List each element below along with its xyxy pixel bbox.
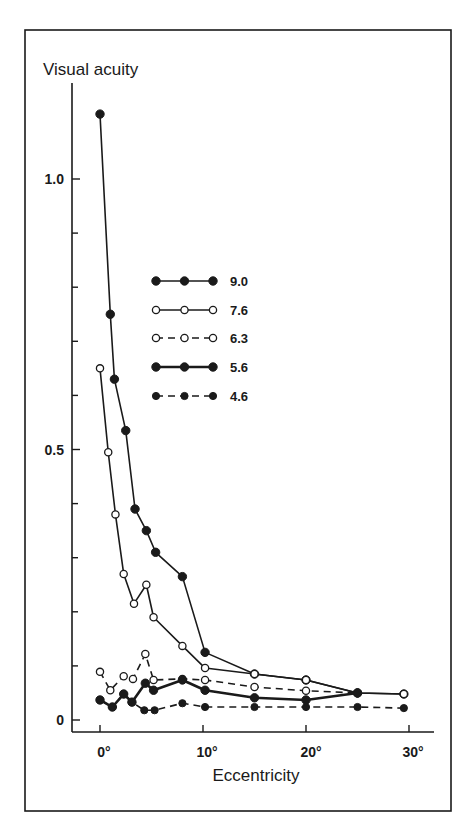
data-point — [149, 686, 157, 694]
data-point — [129, 675, 136, 682]
legend-marker — [152, 392, 159, 399]
data-point — [110, 375, 118, 383]
data-point — [178, 572, 186, 580]
data-point — [201, 703, 208, 710]
y-tick-label-1.0: 1.0 — [45, 171, 65, 187]
legend-label-9.0: 9.0 — [230, 274, 248, 289]
legend-marker — [209, 363, 217, 371]
x-tick-label-30: 30° — [402, 744, 423, 760]
y-axis-title: Visual acuity — [43, 60, 139, 79]
data-point — [150, 614, 157, 621]
data-point — [201, 648, 209, 656]
data-point — [96, 696, 103, 703]
legend-label-4.6: 4.6 — [230, 389, 248, 404]
legend-swatch-9.0 — [152, 277, 217, 285]
y-tick-label-0.5: 0.5 — [45, 442, 65, 458]
legend-item-6.3: 6.3 — [152, 331, 248, 346]
legend-item-5.6: 5.6 — [152, 360, 248, 375]
data-point — [400, 690, 407, 697]
data-point — [106, 310, 114, 318]
data-point — [96, 668, 103, 675]
legend-marker — [152, 277, 160, 285]
data-point — [107, 687, 114, 694]
legend-marker — [152, 306, 159, 313]
data-point — [143, 581, 150, 588]
legend-swatch-6.3 — [152, 334, 216, 341]
data-point — [141, 707, 148, 714]
legend-marker — [152, 334, 159, 341]
legend-label-5.6: 5.6 — [230, 360, 248, 375]
legend-item-4.6: 4.6 — [152, 389, 248, 404]
data-point — [250, 694, 258, 702]
data-point — [96, 365, 103, 372]
data-point — [122, 426, 130, 434]
y-tick-label-0: 0 — [56, 712, 64, 728]
legend-marker — [181, 334, 188, 341]
data-point — [251, 670, 258, 677]
data-point — [131, 505, 139, 513]
data-point — [120, 673, 127, 680]
data-point — [302, 703, 309, 710]
data-point — [201, 664, 208, 671]
data-point — [251, 703, 258, 710]
data-point — [201, 676, 208, 683]
data-point — [302, 676, 309, 683]
x-tick-label-20: 20° — [300, 744, 321, 760]
x-axis-title: Eccentricity — [213, 766, 300, 785]
legend-swatch-7.6 — [152, 306, 216, 313]
x-tick-label-0: 0° — [97, 744, 110, 760]
data-point — [178, 676, 186, 684]
data-point — [151, 707, 158, 714]
data-point — [150, 676, 157, 683]
legend-marker — [181, 392, 188, 399]
data-point — [151, 548, 159, 556]
data-point — [354, 703, 361, 710]
data-point — [302, 687, 309, 694]
data-series — [96, 110, 408, 714]
series-6.3 — [96, 650, 361, 696]
y-ticks — [72, 179, 80, 720]
legend-label-7.6: 7.6 — [230, 303, 248, 318]
data-point — [109, 703, 116, 710]
data-point — [400, 704, 407, 711]
data-point — [141, 679, 149, 687]
data-point — [96, 110, 104, 118]
data-point — [142, 526, 150, 534]
data-point — [353, 689, 361, 697]
data-point — [105, 449, 112, 456]
data-point — [142, 650, 149, 657]
legend-marker — [180, 277, 188, 285]
data-point — [179, 700, 186, 707]
series-line — [100, 654, 358, 693]
visual-acuity-chart: Visual acuity 1.0 0.5 0 0° 10° 20° 30° E… — [0, 0, 473, 828]
data-point — [251, 683, 258, 690]
data-point — [179, 642, 186, 649]
legend-item-7.6: 7.6 — [152, 303, 248, 318]
series-line — [100, 114, 404, 694]
legend-marker — [209, 392, 216, 399]
data-point — [120, 690, 127, 697]
data-point — [112, 511, 119, 518]
legend-label-6.3: 6.3 — [230, 331, 248, 346]
legend-item-9.0: 9.0 — [152, 274, 248, 289]
legend-marker — [209, 334, 216, 341]
legend-swatch-4.6 — [152, 392, 216, 399]
legend-marker — [209, 277, 217, 285]
legend: 9.0 7.6 6.3 5.6 4.6 — [152, 274, 248, 404]
data-point — [201, 686, 209, 694]
legend-marker — [181, 306, 188, 313]
series-9.0 — [96, 110, 408, 698]
data-point — [120, 570, 127, 577]
x-ticks — [100, 725, 409, 732]
data-point — [128, 699, 135, 706]
x-tick-label-10: 10° — [196, 744, 217, 760]
data-point — [130, 600, 137, 607]
legend-marker — [209, 306, 216, 313]
legend-swatch-5.6 — [152, 363, 217, 371]
legend-marker — [152, 363, 160, 371]
legend-marker — [180, 363, 188, 371]
